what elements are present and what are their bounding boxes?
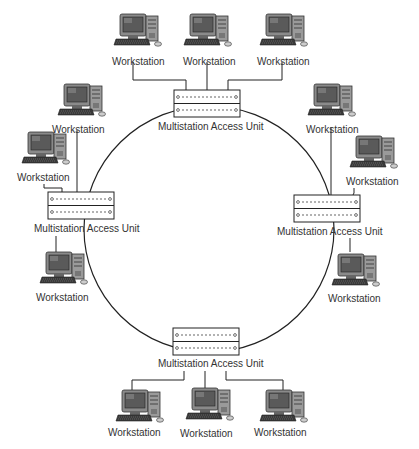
mau-bottom bbox=[173, 328, 239, 355]
workstation-label: Workstation bbox=[112, 56, 165, 67]
workstation-label: Workstation bbox=[36, 292, 89, 303]
workstation-icon bbox=[58, 84, 106, 116]
workstation-icon bbox=[22, 132, 70, 164]
mau-label: Multistation Access Unit bbox=[277, 226, 383, 237]
workstation-label: Workstation bbox=[254, 427, 307, 438]
workstation-label: Workstation bbox=[257, 56, 310, 67]
workstation-label: Workstation bbox=[306, 124, 359, 135]
workstation-label: Workstation bbox=[52, 124, 105, 135]
workstation-icon bbox=[350, 136, 398, 168]
mau-top bbox=[174, 90, 240, 117]
workstation-icon bbox=[332, 254, 380, 286]
workstation-label: Workstation bbox=[108, 427, 161, 438]
workstation-icon bbox=[184, 14, 232, 46]
workstation-icon bbox=[308, 84, 356, 116]
workstation-icon bbox=[116, 390, 164, 422]
workstation-icon bbox=[260, 390, 308, 422]
workstation-icon bbox=[40, 252, 88, 284]
mau-left bbox=[48, 192, 114, 219]
workstation-label: Workstation bbox=[328, 293, 381, 304]
workstation-icon bbox=[186, 388, 234, 420]
mau-label: Multistation Access Unit bbox=[158, 358, 264, 369]
workstation-label: Workstation bbox=[183, 56, 236, 67]
mau-label: Multistation Access Unit bbox=[34, 223, 140, 234]
workstation-label: Workstation bbox=[17, 172, 70, 183]
mau-right bbox=[294, 195, 360, 222]
workstation-icon bbox=[114, 14, 162, 46]
workstation-label: Workstation bbox=[180, 428, 233, 439]
workstation-label: Workstation bbox=[346, 176, 399, 187]
workstation-icon bbox=[260, 14, 308, 46]
mau-label: Multistation Access Unit bbox=[158, 121, 264, 132]
